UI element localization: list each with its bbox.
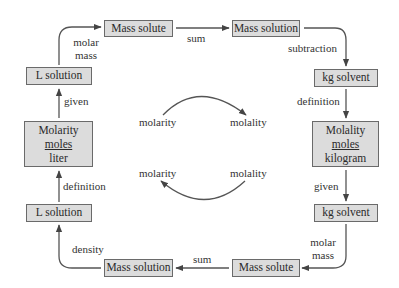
node-molality: Molality moles kilogram — [312, 121, 379, 167]
arc-molarity-to-molality — [163, 97, 246, 116]
center-molality-bottom: molality — [230, 167, 267, 180]
node-l-solution-bottom: L solution — [26, 204, 92, 222]
label-molar-mass-bottom: molar mass — [308, 236, 338, 262]
label-definition-left: definition — [63, 180, 106, 193]
molality-numerator: moles — [332, 137, 359, 151]
molarity-title: Molarity — [38, 123, 78, 137]
label-density-bottom: density — [72, 243, 104, 256]
label-mass: mass — [71, 49, 101, 62]
node-kg-solvent-top: kg solvent — [314, 69, 378, 87]
molarity-numerator: moles — [45, 137, 72, 151]
node-mass-solute-top: Mass solute — [104, 20, 173, 37]
molarity-denominator: liter — [49, 151, 68, 165]
node-l-solution-top: L solution — [26, 67, 92, 85]
label-definition-right: definition — [297, 95, 340, 108]
label-mass: mass — [308, 249, 338, 262]
arc-molality-to-molarity — [161, 181, 245, 200]
node-mass-solute-bottom: Mass solute — [232, 259, 300, 277]
node-mass-solution-top: Mass solution — [232, 20, 300, 37]
label-molar: molar — [308, 236, 338, 249]
label-molar: molar — [71, 36, 101, 49]
center-molarity-bottom: molarity — [139, 167, 176, 180]
molality-denominator: kilogram — [325, 151, 367, 165]
center-molality-top: molality — [230, 116, 267, 129]
label-molar-mass-top: molar mass — [71, 36, 101, 62]
label-sum: sum — [193, 253, 211, 266]
label-density-top: sum — [187, 32, 205, 45]
label-subtraction: subtraction — [288, 42, 337, 55]
molality-title: Molality — [326, 123, 366, 137]
center-molarity-top: molarity — [139, 116, 176, 129]
label-given-right: given — [314, 180, 338, 193]
node-molarity: Molarity moles liter — [24, 121, 93, 167]
node-mass-solution-bottom: Mass solution — [104, 259, 173, 277]
node-kg-solvent-bottom: kg solvent — [314, 204, 378, 222]
label-given-left: given — [64, 95, 88, 108]
